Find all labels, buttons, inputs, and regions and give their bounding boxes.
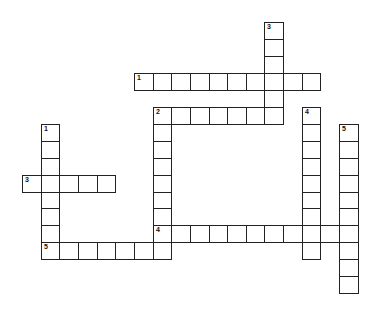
- crossword-cell[interactable]: [339, 208, 359, 226]
- crossword-cell[interactable]: [153, 175, 172, 193]
- crossword-cell[interactable]: [227, 73, 247, 91]
- crossword-cell[interactable]: [246, 107, 265, 125]
- clue-number: 5: [342, 125, 346, 133]
- crossword-cell[interactable]: [264, 39, 284, 57]
- crossword-cell[interactable]: 1: [41, 124, 60, 142]
- crossword-cell[interactable]: [153, 208, 172, 226]
- crossword-cell[interactable]: [190, 107, 210, 125]
- crossword-cell[interactable]: [264, 90, 284, 108]
- crossword-cell[interactable]: [339, 158, 359, 176]
- crossword-cell[interactable]: [190, 225, 210, 243]
- crossword-cell[interactable]: [41, 225, 60, 243]
- crossword-cell[interactable]: 2: [153, 107, 172, 125]
- crossword-cell[interactable]: 5: [41, 242, 60, 260]
- crossword-cell[interactable]: [209, 73, 228, 91]
- clue-number: 3: [267, 23, 271, 31]
- crossword-cell[interactable]: [171, 225, 191, 243]
- crossword-cell[interactable]: 1: [134, 73, 154, 91]
- crossword-cell[interactable]: [302, 192, 321, 209]
- clue-number: 1: [137, 74, 141, 82]
- crossword-cell[interactable]: [302, 225, 321, 243]
- crossword-grid: 123451345: [0, 0, 375, 312]
- crossword-cell[interactable]: [302, 158, 321, 176]
- crossword-cell[interactable]: [339, 175, 359, 193]
- crossword-cell[interactable]: [283, 225, 303, 243]
- crossword-cell[interactable]: [339, 192, 359, 209]
- crossword-cell[interactable]: [153, 73, 172, 91]
- crossword-cell[interactable]: [41, 208, 60, 226]
- crossword-cell[interactable]: [227, 225, 247, 243]
- crossword-cell[interactable]: [302, 242, 321, 260]
- crossword-cell[interactable]: [171, 73, 191, 91]
- crossword-cell[interactable]: [264, 107, 284, 125]
- crossword-cell[interactable]: [134, 242, 154, 260]
- crossword-cell[interactable]: [302, 73, 321, 91]
- crossword-cell[interactable]: [153, 158, 172, 176]
- crossword-cell[interactable]: [339, 141, 359, 159]
- crossword-cell[interactable]: 4: [153, 225, 172, 243]
- crossword-cell[interactable]: [209, 225, 228, 243]
- crossword-cell[interactable]: [339, 242, 359, 260]
- crossword-cell[interactable]: [302, 208, 321, 226]
- crossword-cell[interactable]: [246, 225, 265, 243]
- crossword-cell[interactable]: [153, 242, 172, 260]
- clue-number: 2: [156, 108, 160, 116]
- crossword-cell[interactable]: [264, 56, 284, 74]
- crossword-cell[interactable]: [264, 225, 284, 243]
- crossword-cell[interactable]: [227, 107, 247, 125]
- crossword-cell[interactable]: [302, 141, 321, 159]
- crossword-cell[interactable]: 3: [264, 22, 284, 40]
- crossword-cell[interactable]: [59, 242, 79, 260]
- crossword-cell[interactable]: [339, 259, 359, 277]
- crossword-cell[interactable]: [302, 124, 321, 142]
- crossword-cell[interactable]: [41, 192, 60, 209]
- crossword-cell[interactable]: [115, 242, 135, 260]
- crossword-cell[interactable]: [78, 175, 98, 193]
- clue-number: 4: [156, 226, 160, 234]
- crossword-cell[interactable]: [41, 141, 60, 159]
- crossword-cell[interactable]: 4: [302, 107, 321, 125]
- crossword-cell[interactable]: [190, 73, 210, 91]
- crossword-cell[interactable]: [246, 73, 265, 91]
- crossword-cell[interactable]: [264, 73, 284, 91]
- crossword-cell[interactable]: [97, 242, 116, 260]
- clue-number: 3: [25, 176, 29, 184]
- clue-number: 1: [44, 125, 48, 133]
- crossword-cell[interactable]: [41, 158, 60, 176]
- clue-number: 5: [44, 243, 48, 251]
- crossword-cell[interactable]: [339, 276, 359, 294]
- crossword-cell[interactable]: [283, 73, 303, 91]
- crossword-cell[interactable]: 3: [22, 175, 42, 193]
- clue-number: 4: [305, 108, 309, 116]
- crossword-cell[interactable]: [59, 175, 79, 193]
- crossword-cell[interactable]: [97, 175, 116, 193]
- crossword-cell[interactable]: [209, 107, 228, 125]
- crossword-cell[interactable]: [339, 225, 359, 243]
- crossword-cell[interactable]: [153, 124, 172, 142]
- crossword-cell[interactable]: [320, 225, 340, 243]
- crossword-cell[interactable]: [78, 242, 98, 260]
- crossword-cell[interactable]: [153, 192, 172, 209]
- crossword-cell[interactable]: [171, 107, 191, 125]
- crossword-cell[interactable]: [302, 175, 321, 193]
- crossword-cell[interactable]: 5: [339, 124, 359, 142]
- crossword-cell[interactable]: [153, 141, 172, 159]
- crossword-cell[interactable]: [41, 175, 60, 193]
